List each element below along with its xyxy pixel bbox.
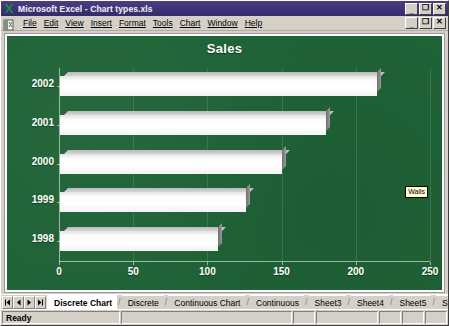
bar-1998[interactable] xyxy=(60,231,218,251)
value-gridline xyxy=(430,68,431,262)
last-sheet-button[interactable] xyxy=(35,296,46,309)
sheet-tab-discrete[interactable]: Discrete xyxy=(122,295,164,309)
category-axis-label: 2002 xyxy=(32,78,54,89)
document-close-button[interactable]: ✕ xyxy=(433,17,446,29)
menu-insert-label: Insert xyxy=(91,18,112,28)
value-tick-mark xyxy=(133,262,134,265)
bar-2001[interactable] xyxy=(60,115,326,135)
menu-item-view[interactable]: View xyxy=(62,17,87,29)
document-window-controls: _ ❐ ✕ xyxy=(405,17,448,29)
first-sheet-button[interactable] xyxy=(2,296,13,309)
sheet-tab-sheet6[interactable]: Sheet6 xyxy=(436,295,448,309)
menu-item-format[interactable]: Format xyxy=(116,17,150,29)
category-tick-mark xyxy=(57,125,60,126)
value-tick-mark xyxy=(430,262,431,265)
menu-item-chart[interactable]: Chart xyxy=(177,17,205,29)
bar-row[interactable]: 2002 xyxy=(60,76,430,96)
bar-row[interactable]: 2001 xyxy=(60,115,430,135)
title-bar[interactable]: Microsoft Excel - Chart types.xls _ ❐ ✕ xyxy=(1,1,448,16)
status-message: Ready xyxy=(2,311,120,324)
excel-app-icon[interactable] xyxy=(4,3,15,14)
category-tick-mark xyxy=(57,202,60,203)
category-axis-label: 2001 xyxy=(32,117,54,128)
category-tick-mark xyxy=(57,164,60,165)
menu-item-insert[interactable]: Insert xyxy=(88,17,116,29)
window-title: Microsoft Excel - Chart types.xls xyxy=(18,4,153,14)
next-sheet-button[interactable] xyxy=(24,296,35,309)
bar-row[interactable]: 1999 xyxy=(60,192,430,212)
category-axis-label: 2000 xyxy=(32,156,54,167)
menu-tools-label: Tools xyxy=(153,18,173,28)
document-minimize-button[interactable]: _ xyxy=(405,17,418,29)
bar-row[interactable]: 1998 xyxy=(60,231,430,251)
window-controls: _ ❐ ✕ xyxy=(405,3,447,15)
menu-chart-label: Chart xyxy=(180,18,201,28)
chart-client-area: Sales 050100150200250 200220012000199919… xyxy=(1,31,448,294)
bar-side-face xyxy=(377,68,381,92)
menu-item-file[interactable]: File xyxy=(20,17,41,29)
menu-item-help[interactable]: Help xyxy=(242,17,266,29)
category-axis-label: 1999 xyxy=(32,194,54,205)
status-cell-3 xyxy=(293,311,315,324)
minimize-button[interactable]: _ xyxy=(405,3,418,15)
menu-item-tools[interactable]: Tools xyxy=(150,17,177,29)
sheet-tab-continuous-chart[interactable]: Continuous Chart xyxy=(168,295,245,309)
sheet-tab-sheet3[interactable]: Sheet3 xyxy=(309,295,347,309)
workbook-icon[interactable] xyxy=(3,17,16,29)
sheet-tab-sheet4[interactable]: Sheet4 xyxy=(351,295,389,309)
menu-help-label: Help xyxy=(245,18,262,28)
menu-window-label: Window xyxy=(207,18,237,28)
bar-2000[interactable] xyxy=(60,154,282,174)
value-tick-mark xyxy=(356,262,357,265)
close-icon: ✕ xyxy=(436,4,443,12)
category-tick-mark xyxy=(57,86,60,87)
previous-sheet-button[interactable] xyxy=(13,296,24,309)
menu-format-label: Format xyxy=(119,18,146,28)
menu-item-window[interactable]: Window xyxy=(204,17,241,29)
plot-area[interactable]: 050100150200250 20022001200019991998 xyxy=(59,68,430,262)
restore-icon: ❐ xyxy=(422,4,429,12)
excel-application-window: Microsoft Excel - Chart types.xls _ ❐ ✕ … xyxy=(0,0,449,326)
value-tick-mark xyxy=(207,262,208,265)
document-restore-button[interactable]: ❐ xyxy=(419,17,432,29)
status-cell-5 xyxy=(379,311,401,324)
value-axis-label: 200 xyxy=(347,266,364,277)
category-tick-mark xyxy=(57,241,60,242)
menu-file-label: File xyxy=(23,18,37,28)
chart-object-frame[interactable]: Sales 050100150200250 200220012000199919… xyxy=(4,33,445,293)
sheet-tab-continuous[interactable]: Continuous xyxy=(250,295,304,309)
status-cell-4 xyxy=(316,311,378,324)
value-axis-label: 150 xyxy=(273,266,290,277)
walls-tooltip: Walls xyxy=(405,186,428,198)
document-close-icon: ✕ xyxy=(436,18,443,26)
category-axis-label: 1998 xyxy=(32,233,54,244)
bar-side-face xyxy=(218,223,222,247)
value-axis-label: 250 xyxy=(422,266,439,277)
status-bar: Ready xyxy=(1,309,448,325)
bar-1999[interactable] xyxy=(60,192,246,212)
bar-row[interactable]: 2000 xyxy=(60,154,430,174)
close-button[interactable]: ✕ xyxy=(433,3,446,15)
value-axis-label: 50 xyxy=(128,266,139,277)
value-axis-line xyxy=(59,261,430,262)
bar-side-face xyxy=(282,146,286,170)
chart-area[interactable]: Sales 050100150200250 200220012000199919… xyxy=(7,36,442,290)
minimize-icon: _ xyxy=(409,7,413,15)
sheet-tab-sheet5[interactable]: Sheet5 xyxy=(393,295,431,309)
document-restore-icon: ❐ xyxy=(422,18,429,26)
menu-bar: File Edit View Insert Format Tools Chart… xyxy=(1,16,448,31)
value-tick-mark xyxy=(59,262,60,265)
sheet-tab-discrete-chart[interactable]: Discrete Chart xyxy=(47,295,117,309)
document-minimize-icon: _ xyxy=(409,21,413,29)
sheet-nav-buttons xyxy=(1,295,47,309)
bar-2002[interactable] xyxy=(60,76,377,96)
sheet-tabs[interactable]: Discrete Chart/Discrete/Continuous Chart… xyxy=(47,295,448,309)
status-cell-7 xyxy=(425,311,447,324)
chart-title[interactable]: Sales xyxy=(7,41,442,56)
sheet-tab-bar: Discrete Chart/Discrete/Continuous Chart… xyxy=(1,294,448,309)
status-cell-6 xyxy=(402,311,424,324)
menu-item-edit[interactable]: Edit xyxy=(41,17,63,29)
restore-button[interactable]: ❐ xyxy=(419,3,432,15)
bar-side-face xyxy=(326,107,330,131)
value-tick-mark xyxy=(282,262,283,265)
